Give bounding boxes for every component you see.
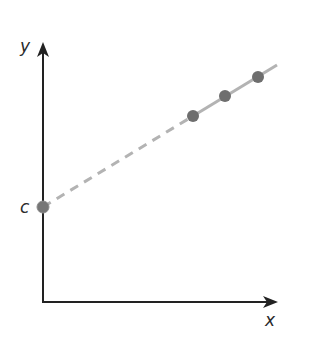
intercept-label: c xyxy=(20,197,30,217)
y-axis-label: y xyxy=(19,36,31,56)
solid-best-fit-line xyxy=(193,65,277,116)
data-point xyxy=(252,71,264,83)
data-point xyxy=(219,90,231,102)
dashed-extrapolation-line xyxy=(43,116,193,207)
data-point xyxy=(187,110,199,122)
intercept-point xyxy=(37,201,49,213)
x-axis-label: x xyxy=(264,310,276,330)
graph-canvas: y x c xyxy=(0,0,319,341)
